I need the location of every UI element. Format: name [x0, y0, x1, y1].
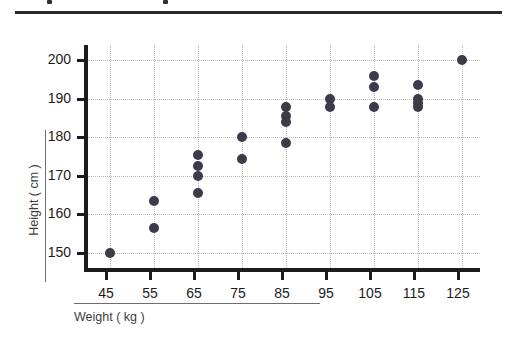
- scatter-point: [237, 154, 247, 164]
- x-tick-mark: [149, 272, 152, 280]
- x-tick-mark: [457, 272, 460, 280]
- y-tick-mark: [77, 252, 84, 255]
- x-tick-mark: [281, 272, 284, 280]
- x-axis-title-group: Weight ( kg ): [74, 303, 320, 324]
- y-axis-title: Height ( cm ): [27, 130, 41, 270]
- y-tick-mark: [77, 213, 84, 216]
- scatter-point: [413, 80, 423, 90]
- gridline-vertical: [330, 45, 331, 268]
- y-tick-label: 190: [37, 90, 71, 106]
- scatter-point: [193, 150, 203, 160]
- x-tick-mark: [237, 272, 240, 280]
- scatter-point: [369, 71, 379, 81]
- gridline-vertical: [154, 45, 155, 268]
- scatter-point: [193, 188, 203, 198]
- plot-area: [84, 45, 480, 272]
- x-tick-label: 105: [358, 285, 381, 301]
- gridline-vertical: [110, 45, 111, 268]
- x-tick-mark: [325, 272, 328, 280]
- x-tick-mark: [369, 272, 372, 280]
- scatter-point: [105, 248, 115, 258]
- x-tick-label: 65: [186, 285, 202, 301]
- scatter-point: [325, 102, 335, 112]
- scatter-point: [281, 117, 291, 127]
- x-tick-mark: [193, 272, 196, 280]
- scatter-point: [281, 102, 291, 112]
- scatter-point: [193, 171, 203, 181]
- x-axis-title: Weight ( kg ): [74, 310, 320, 324]
- scatter-point: [237, 132, 247, 142]
- y-axis-title-group: Height ( cm ): [20, 130, 46, 282]
- gridline-vertical: [462, 45, 463, 268]
- x-tick-mark: [105, 272, 108, 280]
- scatter-point: [369, 82, 379, 92]
- y-tick-mark: [77, 136, 84, 139]
- scatter-point: [149, 196, 159, 206]
- scatter-point: [193, 161, 203, 171]
- x-tick-label: 55: [142, 285, 158, 301]
- x-tick-label: 75: [230, 285, 246, 301]
- y-axis-title-rule: [45, 130, 46, 282]
- x-tick-label: 95: [318, 285, 334, 301]
- gridline-horizontal: [88, 253, 480, 254]
- scatter-point: [149, 223, 159, 233]
- y-tick-label: 200: [37, 51, 71, 67]
- x-axis-title-rule: [74, 303, 320, 304]
- gridline-horizontal: [88, 176, 480, 177]
- gridline-horizontal: [88, 214, 480, 215]
- gridline-horizontal: [88, 60, 480, 61]
- scatter-chart-figure: 150160170180190200 455565758595105115125…: [0, 0, 512, 341]
- scatter-point: [281, 138, 291, 148]
- gridline-vertical: [418, 45, 419, 268]
- plot-inner: [88, 45, 480, 268]
- y-tick-mark: [77, 59, 84, 62]
- scatter-point: [413, 102, 423, 112]
- x-tick-label: 85: [274, 285, 290, 301]
- x-tick-label: 45: [98, 285, 114, 301]
- y-tick-mark: [77, 98, 84, 101]
- gridline-vertical: [286, 45, 287, 268]
- y-tick-mark: [77, 175, 84, 178]
- x-tick-mark: [413, 272, 416, 280]
- scatter-point: [457, 55, 467, 65]
- x-tick-label: 115: [403, 285, 425, 301]
- x-tick-label: 125: [446, 285, 469, 301]
- scatter-point: [369, 102, 379, 112]
